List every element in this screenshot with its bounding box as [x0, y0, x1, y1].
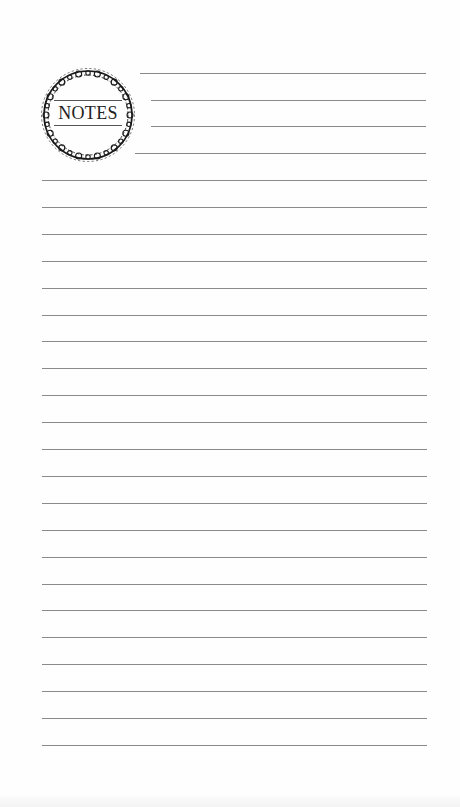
- writing-line: [42, 180, 427, 181]
- writing-line: [42, 288, 427, 289]
- writing-line: [42, 476, 427, 477]
- writing-line: [42, 557, 427, 558]
- writing-line: [42, 207, 427, 208]
- writing-line: [42, 341, 427, 342]
- emblem-title: NOTES: [54, 100, 122, 126]
- writing-line: [42, 610, 427, 611]
- notes-page: NOTES: [0, 0, 460, 807]
- header-line: [151, 100, 426, 101]
- header-line: [135, 153, 426, 154]
- writing-line: [42, 422, 427, 423]
- writing-line: [42, 261, 427, 262]
- header-line: [140, 73, 426, 74]
- writing-line: [42, 637, 427, 638]
- notes-emblem: NOTES: [40, 67, 136, 163]
- writing-line: [42, 664, 427, 665]
- writing-line: [42, 449, 427, 450]
- writing-line: [42, 584, 427, 585]
- writing-line: [42, 745, 427, 746]
- writing-line: [42, 234, 427, 235]
- writing-line: [42, 395, 427, 396]
- page-bottom-edge: [0, 795, 460, 807]
- writing-line: [42, 368, 427, 369]
- writing-line: [42, 691, 427, 692]
- writing-line: [42, 530, 427, 531]
- writing-line: [42, 315, 427, 316]
- writing-line: [42, 503, 427, 504]
- header-line: [151, 126, 426, 127]
- writing-line: [42, 718, 427, 719]
